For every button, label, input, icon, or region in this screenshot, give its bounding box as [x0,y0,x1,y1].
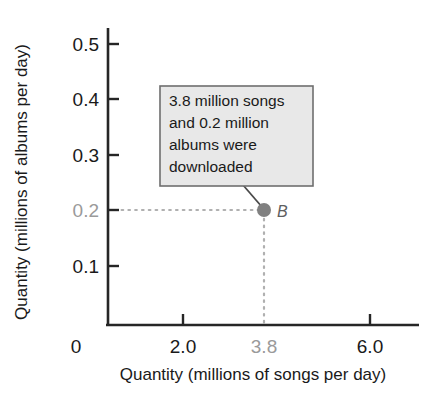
chart-figure: 0.5 0.4 0.3 0.2 0.1 0 2.0 3.8 6.0 Quanti… [0,0,431,405]
y-tick-label-0.3: 0.3 [73,145,99,166]
y-tick-label-0.4: 0.4 [73,89,100,110]
y-tick-label-0.1: 0.1 [73,256,99,277]
x-tick-label-3.8: 3.8 [251,336,277,357]
y-tick-label-0.2: 0.2 [73,200,99,221]
x-tick-label-6.0: 6.0 [357,336,383,357]
point-b-marker[interactable] [257,203,271,217]
y-axis-title: Quantity (millions of albums per day) [12,44,31,320]
x-tick-label-2.0: 2.0 [170,336,196,357]
callout-line-1: 3.8 million songs [169,92,285,109]
callout-line-2: and 0.2 million [169,114,269,131]
scatter-plot-svg: 0.5 0.4 0.3 0.2 0.1 0 2.0 3.8 6.0 Quanti… [0,0,431,405]
point-b-label: B [277,203,288,220]
callout-line-3: albums were [169,136,257,153]
y-tick-label-0.5: 0.5 [73,34,99,55]
callout-line-4: downloaded [169,158,253,175]
x-tick-label-0: 0 [71,336,82,357]
x-axis-title: Quantity (millions of songs per day) [120,365,386,384]
annotation-callout: 3.8 million songs and 0.2 million albums… [160,86,313,186]
